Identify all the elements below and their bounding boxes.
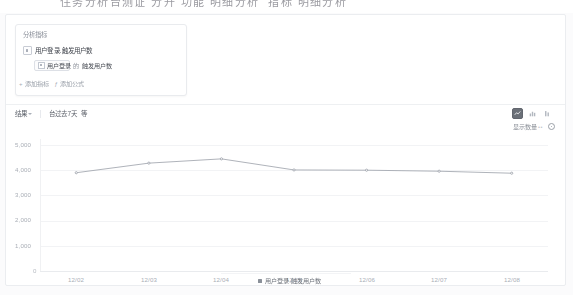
toolbar-extra[interactable]: 等 [81, 110, 86, 118]
data-point[interactable] [511, 172, 513, 174]
connector-label: 的 [73, 61, 79, 69]
legend-label: 用户登录.触发用户数 [265, 276, 321, 284]
measure-label[interactable]: 触发用户数 [82, 61, 112, 69]
metric-card-title: 分析指标 [23, 30, 48, 39]
chart-type-switch [512, 108, 553, 119]
metric-label: 用户登录.触发用户数 [35, 46, 93, 56]
data-point[interactable] [220, 158, 222, 160]
metric-row[interactable]: 用户登录.触发用户数 [23, 46, 83, 55]
toolbar-range-select[interactable]: 台过去7天 [49, 110, 73, 118]
metric-definition-row: 用户登录 的 触发用户数 [34, 60, 107, 71]
analysis-page-card: 分析指标 用户登录.触发用户数 用户登录 的 触发用户数 + 添加指标 [5, 14, 566, 286]
chevron-down-icon [28, 113, 32, 115]
chart-plot-area: 1,0002,0003,0004,0005,000 12/0212/0312/0… [6, 133, 565, 286]
add-formula-label: 添加公式 [60, 79, 84, 87]
show-count-label: 显示数量 [513, 122, 537, 130]
page-heading-text: 住务分析台测证 分升 功能 明细分析 指标 明细分析 [60, 0, 347, 9]
data-point[interactable] [293, 169, 295, 171]
event-tag[interactable]: 用户登录 [34, 60, 70, 71]
show-count-control: 显示数量 •• [513, 123, 555, 130]
section-divider [6, 104, 565, 105]
chart-toolbar: 结果 台过去7天 等 [15, 110, 86, 118]
bar-chart-icon[interactable] [527, 108, 538, 119]
gear-icon[interactable] [548, 123, 555, 130]
toolbar-extra-label: 等 [81, 109, 87, 119]
screen-root: 住务分析台测证 分升 功能 明细分析 指标 明细分析 分析指标 用户登录.触发用… [0, 0, 573, 295]
event-tag-icon [38, 62, 45, 69]
data-point[interactable] [148, 162, 150, 164]
add-metric-button[interactable]: + 添加指标 [19, 80, 45, 87]
add-formula-button[interactable]: ƒ 添加公式 [54, 80, 80, 87]
add-metric-label: 添加指标 [25, 79, 49, 87]
chart-series-layer [6, 133, 565, 286]
data-point[interactable] [438, 170, 440, 172]
show-count-value[interactable]: •• [538, 124, 543, 130]
toolbar-result-select[interactable]: 结果 [15, 110, 32, 118]
page-heading-strip: 住务分析台测证 分升 功能 明细分析 指标 明细分析 [0, 0, 573, 13]
data-point[interactable] [75, 172, 77, 174]
chart-zero-label: 0 [33, 267, 36, 274]
formula-icon: ƒ [54, 81, 57, 87]
toolbar-result-label: 结果 [15, 109, 27, 119]
event-tag-label: 用户登录 [47, 61, 71, 69]
legend-divider [221, 273, 351, 274]
stacked-chart-icon[interactable] [542, 108, 553, 119]
line-chart-icon[interactable] [512, 108, 523, 119]
plus-icon: + [19, 81, 23, 87]
metric-drag-icon [23, 46, 32, 55]
analysis-metric-card: 分析指标 用户登录.触发用户数 用户登录 的 触发用户数 + 添加指标 [15, 24, 187, 96]
legend-marker-icon [258, 279, 262, 283]
toolbar-range-label: 台过去7天 [49, 109, 78, 119]
toolbar-separator [40, 110, 41, 118]
metric-card-actions: + 添加指标 ƒ 添加公式 [19, 80, 81, 87]
data-point[interactable] [365, 169, 367, 171]
chart-legend: 用户登录.触发用户数 [6, 277, 565, 284]
